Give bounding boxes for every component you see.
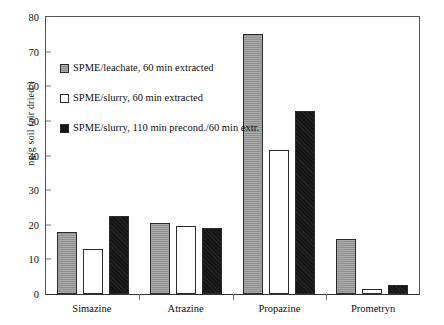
x-tick-label: Prometryn: [326, 303, 420, 314]
bar: [83, 249, 103, 294]
bar: [150, 223, 170, 294]
y-tick-label: 20: [29, 219, 47, 230]
bar-group: [46, 17, 139, 294]
bar-group: [139, 17, 232, 294]
legend-label: SPME/slurry, 110 min precond./60 min ext…: [73, 122, 259, 134]
bar-group: [233, 17, 326, 294]
y-tick-label: 70: [29, 46, 47, 57]
legend-item: SPME/slurry, 60 min extracted: [60, 92, 300, 104]
legend-item: SPME/leachate, 60 min extracted: [60, 62, 300, 74]
legend-swatch-icon: [60, 64, 69, 73]
y-tick-label: 80: [29, 12, 47, 23]
y-tick-label: 40: [29, 150, 47, 161]
y-tick-label: 10: [29, 254, 47, 265]
x-tick-label: Atrazine: [139, 303, 233, 314]
legend-swatch-icon: [60, 94, 69, 103]
y-tick-label: 0: [34, 289, 46, 300]
bar: [336, 239, 356, 294]
y-tick-label: 50: [29, 115, 47, 126]
bar: [202, 228, 222, 294]
y-tick-label: 60: [29, 81, 47, 92]
bar: [362, 289, 382, 294]
y-tick-label: 30: [29, 185, 47, 196]
legend-swatch-icon: [60, 124, 69, 133]
x-tick-label: Simazine: [45, 303, 139, 314]
x-tick-mark: [233, 294, 234, 300]
bar-chart-figure: ng/g soil (air dried ) 01020304050607080…: [0, 0, 444, 325]
bar-groups: [46, 17, 419, 294]
legend-item: SPME/slurry, 110 min precond./60 min ext…: [60, 122, 300, 134]
bar: [109, 216, 129, 294]
plot-area: 01020304050607080: [45, 16, 420, 295]
x-tick-mark: [326, 294, 327, 300]
x-tick-label: Propazine: [233, 303, 327, 314]
x-axis-labels: SimazineAtrazinePropazinePrometryn: [45, 303, 420, 314]
legend-label: SPME/slurry, 60 min extracted: [73, 92, 203, 104]
bar: [388, 285, 408, 294]
legend-label: SPME/leachate, 60 min extracted: [73, 62, 214, 74]
chart-legend: SPME/leachate, 60 min extractedSPME/slur…: [60, 62, 300, 152]
bar: [176, 226, 196, 294]
bar-group: [326, 17, 419, 294]
bar: [57, 232, 77, 294]
bar: [269, 150, 289, 294]
x-tick-mark: [139, 294, 140, 300]
